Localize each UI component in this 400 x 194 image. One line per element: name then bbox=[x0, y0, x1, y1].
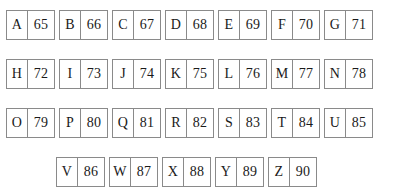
code-cell: 80 bbox=[81, 109, 107, 137]
ascii-code-box: H72 bbox=[6, 59, 55, 89]
letter-cell: Y bbox=[216, 158, 237, 186]
code-cell: 86 bbox=[78, 158, 104, 186]
ascii-code-box: L76 bbox=[218, 59, 267, 89]
code-cell: 82 bbox=[187, 109, 213, 137]
ascii-code-box: Q81 bbox=[112, 108, 161, 138]
letter-cell: P bbox=[60, 109, 81, 137]
letter-cell: Q bbox=[113, 109, 134, 137]
letter-cell: H bbox=[7, 60, 28, 88]
code-cell: 90 bbox=[290, 158, 316, 186]
letter-cell: M bbox=[272, 60, 293, 88]
ascii-code-box: G71 bbox=[324, 10, 373, 40]
ascii-code-box: B66 bbox=[59, 10, 108, 40]
code-cell: 84 bbox=[293, 109, 319, 137]
letter-cell: J bbox=[113, 60, 134, 88]
table-row: H72I73J74K75L76M77N78 bbox=[6, 59, 400, 89]
code-cell: 67 bbox=[134, 11, 160, 39]
letter-cell: G bbox=[325, 11, 346, 39]
ascii-code-box: E69 bbox=[218, 10, 267, 40]
code-cell: 73 bbox=[81, 60, 107, 88]
ascii-code-box: S83 bbox=[218, 108, 267, 138]
ascii-code-box: N78 bbox=[324, 59, 373, 89]
code-cell: 75 bbox=[187, 60, 213, 88]
table-row: A65B66C67D68E69F70G71 bbox=[6, 10, 400, 40]
code-cell: 85 bbox=[346, 109, 372, 137]
code-cell: 71 bbox=[346, 11, 372, 39]
code-cell: 77 bbox=[293, 60, 319, 88]
ascii-code-box: F70 bbox=[271, 10, 320, 40]
letter-cell: E bbox=[219, 11, 240, 39]
letter-cell: X bbox=[163, 158, 184, 186]
letter-cell: C bbox=[113, 11, 134, 39]
code-cell: 69 bbox=[240, 11, 266, 39]
letter-cell: V bbox=[57, 158, 78, 186]
letter-cell: A bbox=[7, 11, 28, 39]
ascii-code-table: A65B66C67D68E69F70G71H72I73J74K75L76M77N… bbox=[0, 0, 400, 194]
ascii-code-box: I73 bbox=[59, 59, 108, 89]
ascii-code-box: X88 bbox=[162, 157, 211, 187]
letter-cell: K bbox=[166, 60, 187, 88]
ascii-code-box: M77 bbox=[271, 59, 320, 89]
code-cell: 68 bbox=[187, 11, 213, 39]
ascii-code-box: W87 bbox=[109, 157, 158, 187]
ascii-code-box: K75 bbox=[165, 59, 214, 89]
ascii-code-box: O79 bbox=[6, 108, 55, 138]
ascii-code-box: T84 bbox=[271, 108, 320, 138]
letter-cell: O bbox=[7, 109, 28, 137]
code-cell: 88 bbox=[184, 158, 210, 186]
letter-cell: U bbox=[325, 109, 346, 137]
ascii-code-box: J74 bbox=[112, 59, 161, 89]
ascii-code-box: R82 bbox=[165, 108, 214, 138]
ascii-code-box: C67 bbox=[112, 10, 161, 40]
code-cell: 89 bbox=[237, 158, 263, 186]
ascii-code-box: V86 bbox=[56, 157, 105, 187]
code-cell: 76 bbox=[240, 60, 266, 88]
letter-cell: F bbox=[272, 11, 293, 39]
ascii-code-box: U85 bbox=[324, 108, 373, 138]
code-cell: 72 bbox=[28, 60, 54, 88]
table-row: V86W87X88Y89Z90 bbox=[56, 157, 400, 187]
ascii-code-box: P80 bbox=[59, 108, 108, 138]
letter-cell: B bbox=[60, 11, 81, 39]
code-cell: 79 bbox=[28, 109, 54, 137]
code-cell: 74 bbox=[134, 60, 160, 88]
code-cell: 65 bbox=[28, 11, 54, 39]
ascii-code-box: D68 bbox=[165, 10, 214, 40]
ascii-code-box: Y89 bbox=[215, 157, 264, 187]
letter-cell: I bbox=[60, 60, 81, 88]
code-cell: 70 bbox=[293, 11, 319, 39]
letter-cell: S bbox=[219, 109, 240, 137]
ascii-code-box: A65 bbox=[6, 10, 55, 40]
code-cell: 81 bbox=[134, 109, 160, 137]
letter-cell: Z bbox=[269, 158, 290, 186]
code-cell: 83 bbox=[240, 109, 266, 137]
code-cell: 78 bbox=[346, 60, 372, 88]
code-cell: 66 bbox=[81, 11, 107, 39]
letter-cell: R bbox=[166, 109, 187, 137]
letter-cell: D bbox=[166, 11, 187, 39]
ascii-code-box: Z90 bbox=[268, 157, 317, 187]
letter-cell: W bbox=[110, 158, 131, 186]
letter-cell: L bbox=[219, 60, 240, 88]
letter-cell: N bbox=[325, 60, 346, 88]
code-cell: 87 bbox=[131, 158, 157, 186]
table-row: O79P80Q81R82S83T84U85 bbox=[6, 108, 400, 138]
letter-cell: T bbox=[272, 109, 293, 137]
